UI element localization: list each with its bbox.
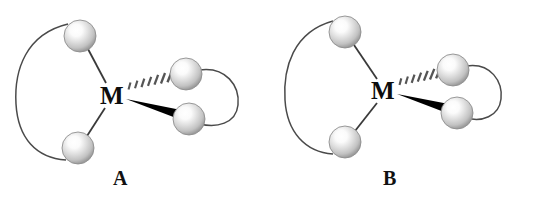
bond-upper-left-plain (88, 49, 106, 83)
metal-center-label-b: M (371, 78, 395, 103)
donor-sphere-lower-left (329, 126, 361, 158)
donor-sphere-lower-left (62, 132, 94, 164)
left-chelate-backbone-arc (16, 24, 68, 160)
left-chelate-backbone-arc (285, 21, 333, 154)
donor-sphere-lower-right (441, 97, 473, 129)
structure-b-drawing (273, 0, 546, 208)
bond-lower-left-plain (355, 103, 377, 131)
donor-sphere-upper-right (170, 58, 202, 90)
bond-lower-left-plain (87, 108, 105, 136)
structure-caption-a: A (113, 168, 127, 188)
bond-upper-left-plain (354, 45, 377, 79)
donor-sphere-upper-left (64, 20, 96, 52)
metal-center-label-a: M (100, 83, 124, 108)
structure-a: M A (0, 0, 273, 208)
donor-sphere-lower-right (173, 103, 205, 135)
structure-a-drawing (0, 0, 273, 208)
donor-sphere-upper-right (437, 54, 469, 86)
structure-b: M B (273, 0, 546, 208)
chemical-structure-figure: M A (0, 0, 547, 208)
donor-sphere-upper-left (329, 16, 361, 48)
structure-caption-b: B (383, 168, 396, 188)
